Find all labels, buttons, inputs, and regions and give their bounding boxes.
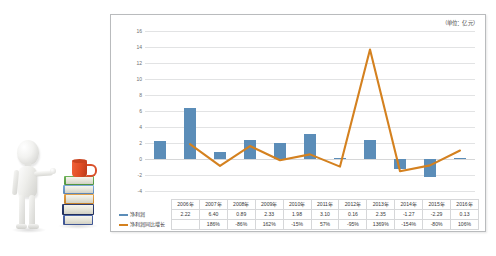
mannequin-head-icon: [17, 140, 39, 165]
chart-y-axis-tick-label: 6: [139, 108, 142, 114]
book-icon: [64, 194, 94, 204]
table-cell: 57%: [311, 220, 339, 230]
table-column-header: 2011年: [311, 200, 339, 210]
table-cell: 2.22: [172, 210, 200, 220]
chart-line-series-yoy-growth: [145, 31, 475, 191]
table-header-row: 2006年2007年2008年2009年2010年2011年2012年2013年…: [117, 200, 479, 210]
table-column-header: 2015年: [423, 200, 451, 210]
table-row: 净利润2.226.400.892.331.983.100.162.35-1.27…: [117, 210, 479, 220]
legend-label: 净利润同比增长: [130, 221, 165, 227]
table-column-header: 2007年: [199, 200, 227, 210]
book-icon: [62, 204, 94, 215]
mannequin-hand: [50, 168, 56, 174]
table-cell: 3.10: [311, 210, 339, 220]
mug-rim: [72, 159, 87, 163]
table-cell: -1.27: [395, 210, 423, 220]
chart-unit-label: （单位：亿元）: [442, 19, 478, 27]
chart-y-axis-tick-label: 12: [136, 60, 142, 66]
table-cell: -154%: [395, 220, 423, 230]
book-icon: [63, 215, 93, 225]
table-cell: -2.29: [423, 210, 451, 220]
book-icon: [64, 176, 94, 185]
table-column-header: 2010年: [283, 200, 311, 210]
legend-swatch-icon: [119, 224, 128, 226]
table-cell: [172, 220, 200, 230]
book-icon: [63, 185, 94, 194]
screenshot-canvas: （单位：亿元） 1614121086420-2-4 2006年2007年2008…: [0, 0, 496, 256]
table-cell: -86%: [227, 220, 255, 230]
table-column-header: 2006年: [172, 200, 200, 210]
illustration-mannequin-with-books: [0, 0, 108, 256]
table-series-legend: 净利润同比增长: [117, 220, 172, 230]
table-cell: 0.13: [451, 210, 479, 220]
table-cell: 0.16: [339, 210, 367, 220]
table-column-header: 2009年: [255, 200, 283, 210]
legend-label: 净利润: [130, 211, 145, 217]
table-column-header: 2016年: [451, 200, 479, 210]
table-cell: 6.40: [199, 210, 227, 220]
chart-gridline: -4: [145, 191, 475, 192]
legend-swatch-icon: [119, 214, 128, 216]
table-cell: -95%: [339, 220, 367, 230]
mannequin-right-foot: [28, 224, 39, 229]
table-cell: 1369%: [367, 220, 395, 230]
chart-line-path-svg: [145, 31, 475, 191]
mannequin-right-leg: [29, 195, 35, 227]
chart-y-axis-tick-label: 4: [139, 124, 142, 130]
table-corner-cell: [117, 200, 172, 210]
table-column-header: 2013年: [367, 200, 395, 210]
chart-y-axis-tick-label: 2: [139, 140, 142, 146]
table-column-header: 2008年: [227, 200, 255, 210]
table-cell: 1.98: [283, 210, 311, 220]
table-cell: -80%: [423, 220, 451, 230]
chart-y-axis-tick-label: 14: [136, 44, 142, 50]
table-cell: 186%: [199, 220, 227, 230]
mannequin-left-foot: [16, 224, 27, 229]
table-cell: 2.35: [367, 210, 395, 220]
chart-plot-area: 1614121086420-2-4: [145, 31, 475, 191]
table-cell: -15%: [283, 220, 311, 230]
mannequin-left-leg: [19, 195, 25, 227]
chart-container: （单位：亿元） 1614121086420-2-4 2006年2007年2008…: [110, 14, 486, 232]
chart-y-axis-tick-label: 16: [136, 28, 142, 34]
chart-y-axis-tick-label: 10: [136, 76, 142, 82]
chart-y-axis-tick-label: 8: [139, 92, 142, 98]
chart-y-axis-tick-label: -4: [138, 188, 142, 194]
chart-data-table: 2006年2007年2008年2009年2010年2011年2012年2013年…: [117, 199, 479, 230]
table-column-header: 2014年: [395, 200, 423, 210]
table-column-header: 2012年: [339, 200, 367, 210]
chart-y-axis-tick-label: -2: [138, 172, 142, 178]
chart-y-axis-tick-label: 0: [139, 156, 142, 162]
table-cell: 0.89: [227, 210, 255, 220]
table-series-legend: 净利润: [117, 210, 172, 220]
table-cell: 2.33: [255, 210, 283, 220]
table-cell: 106%: [451, 220, 479, 230]
table-row: 净利润同比增长186%-86%162%-15%57%-95%1369%-154%…: [117, 220, 479, 230]
chart-line: [190, 50, 460, 172]
table-cell: 162%: [255, 220, 283, 230]
mannequin-torso: [18, 166, 37, 197]
